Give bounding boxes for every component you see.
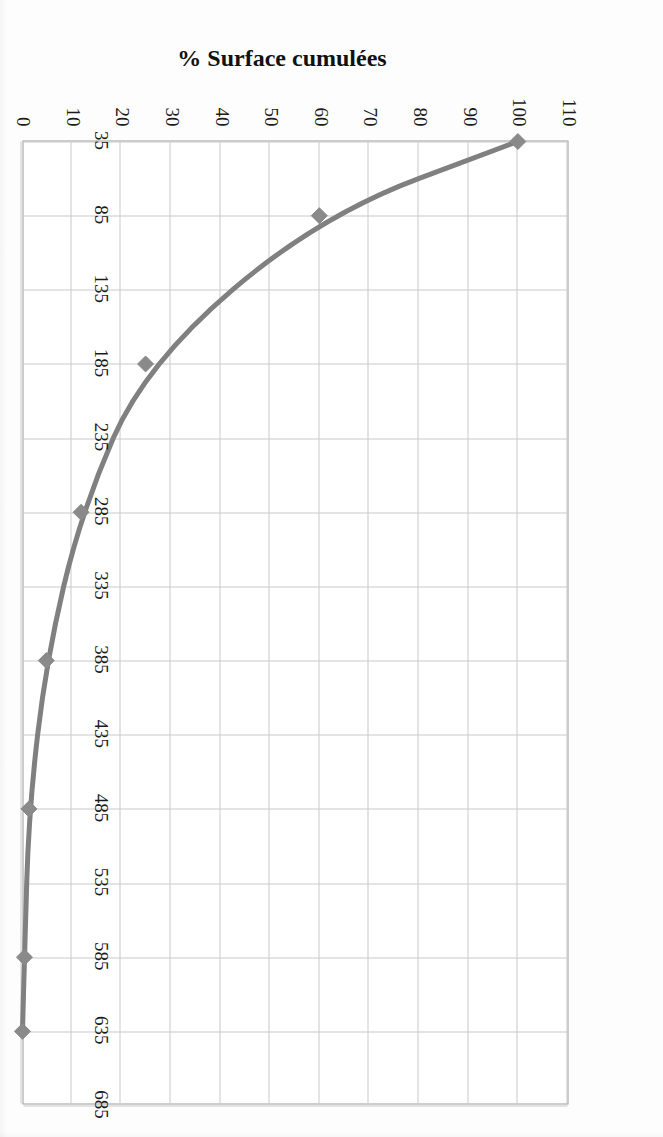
chart-figure: 3585135185235285335385435485535585635685… bbox=[0, 0, 663, 1137]
data-point-marker bbox=[137, 355, 153, 371]
x-tick-label: 585 bbox=[89, 941, 111, 970]
x-tick-label: 435 bbox=[89, 719, 111, 748]
y-tick-label: 30 bbox=[160, 107, 182, 126]
y-tick-label: 40 bbox=[210, 107, 232, 126]
x-tick-label: 385 bbox=[89, 645, 111, 674]
x-tick-label: 685 bbox=[89, 1090, 111, 1119]
y-tick-label: 70 bbox=[358, 107, 380, 126]
x-tick-label: 635 bbox=[89, 1016, 111, 1045]
data-point-marker bbox=[509, 133, 525, 149]
x-tick-label: 335 bbox=[89, 571, 111, 600]
y-tick-label: 0 bbox=[11, 117, 33, 127]
y-tick-label: 100 bbox=[507, 98, 529, 127]
data-point-marker bbox=[16, 949, 32, 965]
y-tick-label: 20 bbox=[110, 107, 132, 126]
y-tick-label: 110 bbox=[557, 98, 579, 126]
y-tick-label: 80 bbox=[408, 107, 430, 126]
x-tick-label: 285 bbox=[89, 497, 111, 526]
rotated-chart-container: 3585135185235285335385435485535585635685… bbox=[0, 0, 663, 1137]
y-axis-title: % Surface cumulées bbox=[72, 45, 492, 72]
y-tick-label: 90 bbox=[458, 107, 480, 126]
x-tick-label: 185 bbox=[89, 348, 111, 377]
y-tick-label: 60 bbox=[309, 107, 331, 126]
x-tick-label: 35 bbox=[89, 131, 111, 150]
data-point-marker bbox=[311, 207, 327, 223]
data-point-marker bbox=[20, 800, 36, 816]
x-tick-label: 235 bbox=[89, 422, 111, 451]
y-tick-label: 50 bbox=[259, 107, 281, 126]
x-axis-title: Altitude (m) bbox=[0, 140, 3, 1104]
x-tick-label: 485 bbox=[89, 793, 111, 822]
data-point-marker bbox=[14, 1023, 30, 1039]
x-tick-label: 85 bbox=[89, 205, 111, 224]
y-tick-label: 10 bbox=[61, 107, 83, 126]
x-tick-label: 135 bbox=[89, 274, 111, 303]
x-tick-label: 535 bbox=[89, 867, 111, 896]
